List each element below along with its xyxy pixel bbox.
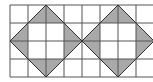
grid-diagram — [0, 0, 153, 82]
